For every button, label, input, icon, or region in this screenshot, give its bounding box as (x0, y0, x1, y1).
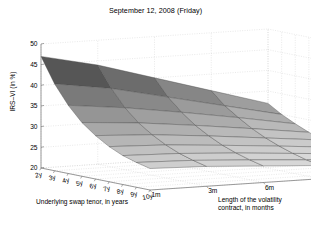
svg-text:5y: 5y (75, 179, 84, 188)
svg-text:1m: 1m (151, 191, 161, 198)
svg-text:7y: 7y (102, 184, 111, 193)
svg-text:4y: 4y (62, 176, 71, 185)
svg-text:35: 35 (30, 102, 38, 109)
svg-text:50: 50 (30, 40, 38, 47)
svg-text:30: 30 (30, 123, 38, 130)
svg-text:6m: 6m (265, 184, 275, 191)
svg-text:8y: 8y (116, 187, 125, 196)
figure-3d-surface-plot: September 12, 2008 (Friday) IRS–VI (in %… (0, 0, 311, 232)
plot-canvas: 202530354045502y3y4y5y6y7y8y9y10y1m3m6m9… (0, 0, 311, 232)
svg-text:40: 40 (30, 82, 38, 89)
svg-text:2y: 2y (34, 170, 43, 179)
svg-text:3y: 3y (48, 173, 57, 182)
svg-text:9y: 9y (130, 190, 139, 199)
svg-text:3m: 3m (208, 187, 218, 194)
svg-text:45: 45 (30, 61, 38, 68)
svg-text:20: 20 (30, 164, 38, 171)
svg-text:6y: 6y (89, 181, 98, 190)
surface-mesh (41, 56, 311, 168)
svg-text:25: 25 (30, 144, 38, 151)
